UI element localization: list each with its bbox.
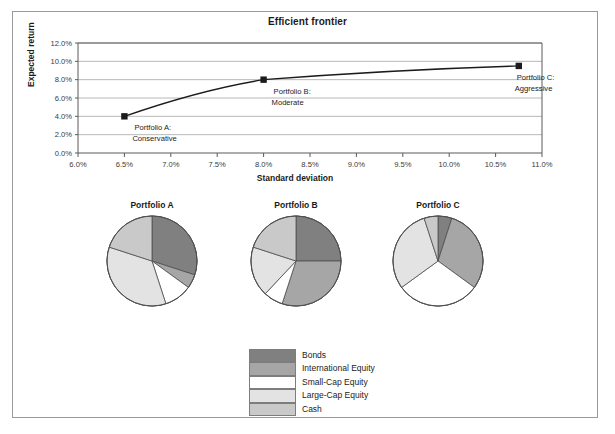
y-axis-title: Expected return: [26, 22, 36, 87]
y-tick-label: 0.0%: [55, 149, 73, 158]
pie-title-portfolio-c: Portfolio C: [368, 200, 508, 210]
x-tick-label: 9.5%: [394, 160, 412, 169]
data-point-marker: [516, 63, 522, 69]
pie-chart-row: Portfolio A Portfolio B Portfolio C: [40, 200, 580, 330]
pie-block-portfolio-b: Portfolio B: [226, 200, 366, 309]
legend-label: Bonds: [302, 349, 326, 362]
legend-label: Cash: [302, 403, 322, 416]
efficient-frontier-chart: Expected return Standard deviation 0.0%2…: [30, 35, 560, 185]
data-point-marker: [121, 113, 127, 119]
pie-title-portfolio-b: Portfolio B: [226, 200, 366, 210]
pie-chart-portfolio-b: [248, 213, 344, 309]
y-tick-label: 10.0%: [50, 57, 72, 66]
x-tick-label: 6.5%: [116, 160, 134, 169]
efficient-frontier-plot: 0.0%2.0%4.0%6.0%8.0%10.0%12.0%6.0%6.5%7.…: [30, 35, 560, 185]
y-tick-label: 12.0%: [50, 39, 72, 48]
pie-block-portfolio-a: Portfolio A: [82, 200, 222, 309]
legend-swatch: [249, 403, 296, 416]
legend-label: International Equity: [302, 362, 375, 375]
legend-swatch: [249, 376, 296, 389]
chart-legend: BondsInternational EquitySmall-Cap Equit…: [249, 349, 429, 416]
y-tick-label: 2.0%: [55, 130, 73, 139]
point-annotation-label: Portfolio C:: [517, 73, 555, 82]
legend-item: Cash: [249, 403, 429, 416]
x-tick-label: 11.0%: [532, 160, 553, 169]
x-tick-label: 7.0%: [162, 160, 180, 169]
figure-title: Efficient frontier: [0, 16, 615, 27]
x-tick-label: 9.0%: [348, 160, 366, 169]
y-tick-label: 8.0%: [55, 75, 73, 84]
point-annotation-sublabel: Aggressive: [515, 84, 553, 93]
point-annotation-label: Portfolio A:: [134, 123, 171, 132]
pie-title-portfolio-a: Portfolio A: [82, 200, 222, 210]
point-annotation-sublabel: Conservative: [132, 134, 176, 143]
x-tick-label: 10.0%: [438, 160, 460, 169]
point-annotation-sublabel: Moderate: [272, 98, 304, 107]
legend-item: Small-Cap Equity: [249, 376, 429, 389]
x-tick-label: 8.0%: [255, 160, 273, 169]
legend-swatch: [249, 362, 296, 375]
pie-block-portfolio-c: Portfolio C: [368, 200, 508, 309]
legend-label: Large-Cap Equity: [302, 389, 368, 402]
legend-swatch: [249, 389, 296, 402]
legend-item: Bonds: [249, 349, 429, 362]
legend-swatch: [249, 349, 296, 362]
figure-root: Efficient frontier Expected return Stand…: [0, 0, 615, 434]
x-tick-label: 8.5%: [301, 160, 319, 169]
y-tick-label: 6.0%: [55, 94, 73, 103]
pie-chart-portfolio-c: [390, 213, 486, 309]
x-tick-label: 10.5%: [485, 160, 507, 169]
pie-slice: [296, 216, 341, 261]
point-annotation-label: Portfolio B:: [274, 87, 311, 96]
x-tick-label: 6.0%: [69, 160, 87, 169]
pie-chart-portfolio-a: [104, 213, 200, 309]
data-point-marker: [260, 76, 266, 82]
legend-label: Small-Cap Equity: [302, 376, 368, 389]
y-tick-label: 4.0%: [55, 112, 73, 121]
x-axis-title: Standard deviation: [30, 173, 560, 183]
x-tick-label: 7.5%: [209, 160, 227, 169]
legend-item: Large-Cap Equity: [249, 389, 429, 402]
legend-item: International Equity: [249, 362, 429, 375]
